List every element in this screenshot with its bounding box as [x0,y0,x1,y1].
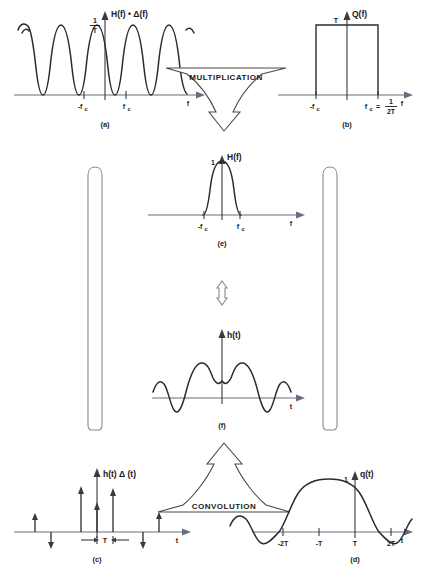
panel-d: 1 q(t) -2T -T T 2T t (d) [230,469,413,564]
panel-d-tick-label-pos-t: T [353,540,358,547]
panel-a-tick-label-pos-fc-sub: c [127,106,130,112]
panel-b-equation-numerator: 1 [389,98,393,105]
panel-f-x-axis-arrowhead [296,395,305,402]
panel-b-tick-label-neg-fc: -f [310,103,315,110]
panel-c-spacing-label: T [103,537,108,544]
panel-b-tick-label-pos-fc: f [365,103,368,110]
panel-e-tick-label-pos-fc-sub: c [241,226,244,232]
panel-a-tag: (a) [100,120,110,129]
panel-e-x-axis-label: f [290,220,293,227]
panel-c-y-axis-arrowhead [94,468,101,477]
panel-a-right-tail [186,28,194,33]
panel-b: T Q(f) -f c f c = 1 2T f (b) [278,9,413,129]
panel-b-equation-equals: = [376,103,380,110]
right-hollow-up-arrow [323,167,337,430]
panel-b-y-value: T [334,17,339,24]
panel-f-y-axis-arrowhead [219,329,226,338]
panel-c-impulse-neg-t-head [78,486,84,494]
panel-e-tick-label-neg-fc-sub: c [204,226,207,232]
panel-c-impulse-right-down-head [140,542,146,549]
panel-d-y-value: 1 [344,476,348,483]
panel-d-y-axis-arrowhead [352,471,359,480]
panel-b-tag: (b) [342,120,352,129]
panel-b-tick-label-pos-fc-sub: c [369,106,372,112]
panel-b-x-axis-label: f [401,100,404,107]
panel-a-tick-label-pos-fc: f [123,103,126,110]
panel-b-y-axis-arrowhead [344,11,351,20]
panel-f-tag: (f) [218,421,226,430]
panel-c-x-axis-label: t [176,537,179,544]
panel-c-tag: (c) [92,555,102,564]
panel-e-y-value: 1 [211,159,215,166]
multiplication-band: MULTIPLICATION [166,68,286,131]
panel-e-y-axis-arrowhead [219,155,226,164]
panel-b-equation-denominator: 2T [387,108,396,115]
right-vertical-connector [323,167,337,430]
panel-d-tick-label-pos-2t: 2T [387,540,396,547]
panel-e: 1 H(f) -f c f c f (e) [148,152,305,248]
panel-c-impulse-left-down-head [48,542,54,549]
panel-c-x-axis-arrowhead [182,529,191,536]
panel-c-impulse-pos-t-head [110,488,116,496]
panel-f-x-axis-label: t [290,403,293,410]
panel-d-x-axis-label: t [401,537,404,544]
panel-a-x-axis-label: f [187,100,190,107]
panel-a-y-value-numerator: 1 [93,17,97,24]
panel-c-impulse-far-left-up-head [32,513,38,520]
multiplication-label: MULTIPLICATION [189,73,262,82]
panel-a-y-value-denominator: T [93,27,98,34]
panel-e-tick-label-neg-fc: -f [198,223,203,230]
panel-f-signal-label: h(t) [227,330,241,340]
panel-d-tag: (d) [350,555,360,564]
panel-a-y-axis-arrowhead [102,11,109,20]
panel-c-impulse-center-head [94,502,100,510]
panel-a-waveform [18,24,187,95]
panel-d-signal-label: q(t) [360,469,374,479]
panel-e-tick-label-pos-fc: f [237,223,240,230]
panel-b-tick-label-neg-fc-sub: c [316,106,319,112]
figure-container: 1 T H(f) • Δ(f) -f c f c f (a) T Q(f) -f… [0,0,426,577]
panel-b-signal-label: Q(f) [352,9,367,19]
panel-a-tick-label-neg-fc: -f [78,103,83,110]
panel-a-x-axis-arrowhead [196,92,205,99]
signal-processing-diagram: 1 T H(f) • Δ(f) -f c f c f (a) T Q(f) -f… [0,0,426,577]
panel-e-signal-label: H(f) [227,152,242,162]
left-hollow-up-arrow [88,167,102,430]
convolution-label: CONVOLUTION [192,502,257,511]
center-vertical-connector [217,281,227,305]
panel-d-tick-label-neg-t: -T [316,540,323,547]
panel-b-x-axis-arrowhead [404,92,413,99]
panel-a-tick-label-neg-fc-sub: c [84,106,87,112]
panel-a-left-tail [22,29,29,33]
panel-c-impulse-far-right-up-head [156,512,162,519]
center-double-arrow [217,281,227,305]
left-vertical-connector [88,167,102,430]
convolution-band: CONVOLUTION [158,443,290,512]
panel-f: h(t) t (f) [152,329,305,430]
panel-a-signal-label: H(f) • Δ(f) [111,9,148,19]
panel-e-x-axis-arrowhead [296,212,305,219]
panel-e-tag: (e) [217,239,227,248]
panel-c: T h(t) Δ (t) t (c) [14,468,191,564]
panel-c-signal-label: h(t) Δ (t) [103,469,136,479]
panel-d-tick-label-neg-2t: -2T [278,540,289,547]
